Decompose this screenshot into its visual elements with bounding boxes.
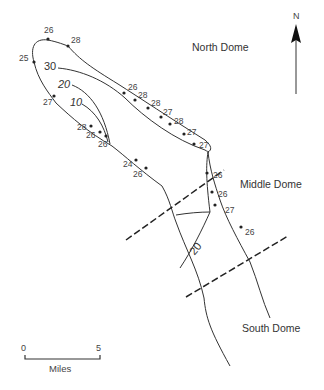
point-label: 27 [225, 205, 235, 215]
middle-cross-line [176, 212, 210, 215]
contour-30-line [58, 68, 209, 152]
point-label: 26 [218, 189, 228, 199]
point-label: 25 [19, 53, 29, 63]
data-points [32, 37, 242, 228]
contour-20-south-line [180, 212, 210, 268]
point-label: 27 [199, 140, 209, 150]
contour-label-20-north: 20 [57, 78, 71, 90]
north-label: N [293, 11, 300, 21]
point-label: 27 [163, 107, 173, 117]
scale-unit-label: Miles [49, 363, 71, 374]
point-label: 26 [213, 170, 223, 180]
contour-label-30: 30 [44, 60, 56, 72]
point-label: 27 [187, 127, 197, 137]
north-dome-label: North Dome [192, 41, 249, 53]
scale-end-label: 5 [96, 343, 101, 353]
south-dome-label: South Dome [242, 322, 301, 334]
scale-bar: 0 5 Miles [21, 343, 101, 374]
point-label: 28 [174, 116, 184, 126]
point-label: 27 [43, 97, 53, 107]
point-label: 26 [245, 227, 255, 237]
structure-contour-map: 26 28 25 27 28 26 26 24 26 26 28 28 27 2… [0, 0, 324, 390]
contour-label-10: 10 [70, 96, 83, 108]
point-label: 28 [151, 98, 161, 108]
north-arrow-icon: N [291, 11, 301, 94]
point-label: 26 [133, 169, 143, 179]
west-boundary-line [34, 62, 230, 366]
point-label: 28 [71, 35, 81, 45]
point-label: 28 [138, 90, 148, 100]
middle-dome-label: Middle Dome [240, 178, 302, 190]
point-label: 26 [86, 130, 96, 140]
point-label: 24 [123, 159, 133, 169]
point-label: 26 [128, 82, 138, 92]
scale-start-label: 0 [21, 343, 26, 353]
point-labels: 26 28 25 27 28 26 26 24 26 26 28 28 27 2… [19, 25, 255, 237]
point-label: 26 [98, 139, 108, 149]
point-label: 26 [44, 25, 54, 35]
